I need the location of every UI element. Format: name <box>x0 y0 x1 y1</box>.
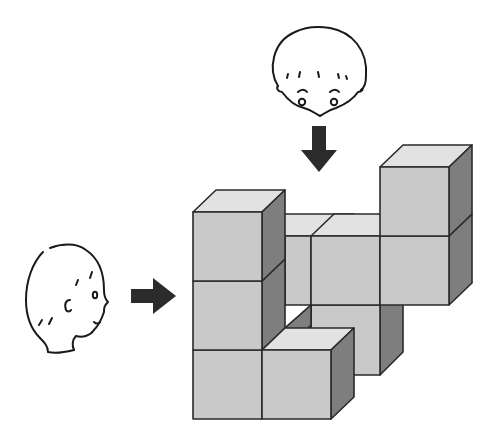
cube <box>193 350 262 419</box>
cube-diagram <box>0 0 502 447</box>
cube <box>193 190 285 281</box>
cube-structure <box>193 145 472 419</box>
cube <box>262 328 354 419</box>
cube <box>380 145 472 236</box>
right-arrow-icon <box>131 278 176 314</box>
down-arrow-icon <box>301 126 337 172</box>
side-observer-head-icon <box>26 245 108 353</box>
top-observer-head-icon <box>273 27 366 116</box>
